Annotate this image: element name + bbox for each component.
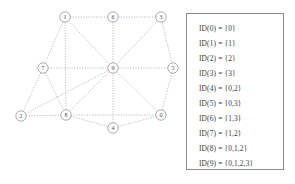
legend-entry: ID(5) = {0,3} bbox=[187, 96, 283, 111]
graph-node-label: 9 bbox=[112, 65, 115, 71]
node-layer: 1637952804 bbox=[16, 12, 178, 133]
graph-node-6[interactable]: 6 bbox=[108, 12, 118, 22]
graph-node-label: 3 bbox=[160, 14, 163, 20]
graph-edge bbox=[23, 73, 41, 112]
graph-edge bbox=[65, 22, 66, 110]
graph-node-5[interactable]: 5 bbox=[168, 63, 178, 73]
graph-edge bbox=[118, 116, 156, 126]
graph-edge bbox=[71, 116, 108, 126]
legend-entry: ID(6) = {1,3} bbox=[187, 111, 283, 126]
graph-node-7[interactable]: 7 bbox=[38, 63, 48, 73]
graph-edge bbox=[70, 72, 110, 112]
graph-node-label: 1 bbox=[64, 14, 67, 20]
graph-node-1[interactable]: 1 bbox=[60, 12, 70, 22]
graph-node-3[interactable]: 3 bbox=[156, 12, 166, 22]
graph-edge bbox=[69, 21, 110, 64]
graph-node-label: 8 bbox=[65, 112, 68, 118]
graph-node-label: 2 bbox=[20, 113, 23, 119]
graph-node-4[interactable]: 4 bbox=[108, 123, 118, 133]
graph-node-9[interactable]: 9 bbox=[108, 63, 118, 73]
graph-edge bbox=[117, 72, 158, 112]
diagram-page: 1637952804 ID(0) = {0}ID(1) = {1}ID(2) =… bbox=[0, 0, 295, 184]
legend-entry: ID(2) = {2} bbox=[187, 51, 283, 66]
legend-entry: ID(7) = {1,2} bbox=[187, 126, 283, 141]
graph-node-0[interactable]: 0 bbox=[156, 110, 166, 120]
graph-svg: 1637952804 bbox=[0, 0, 182, 184]
graph-node-label: 4 bbox=[112, 125, 115, 131]
graph-node-2[interactable]: 2 bbox=[16, 111, 26, 121]
legend-box: ID(0) = {0}ID(1) = {1}ID(2) = {2}ID(3) =… bbox=[186, 13, 284, 170]
legend-entry: ID(9) = {0,1,2,3} bbox=[187, 156, 283, 171]
graph-node-label: 0 bbox=[160, 112, 163, 118]
graph-edge bbox=[162, 73, 171, 110]
graph-node-label: 6 bbox=[112, 14, 115, 20]
graph-node-label: 7 bbox=[42, 65, 45, 71]
graph-edge bbox=[45, 73, 63, 111]
graph-edge bbox=[26, 70, 109, 113]
legend-entry: ID(4) = {0,2} bbox=[187, 81, 283, 96]
graph-edge bbox=[117, 21, 158, 64]
legend-entry: ID(8) = {0,1,2} bbox=[187, 141, 283, 156]
graph-node-label: 5 bbox=[172, 65, 175, 71]
graph-edge bbox=[45, 22, 63, 63]
legend-entry: ID(3) = {3} bbox=[187, 66, 283, 81]
graph-node-8[interactable]: 8 bbox=[61, 110, 71, 120]
graph-panel: 1637952804 bbox=[0, 0, 182, 184]
legend-entry: ID(0) = {0} bbox=[187, 21, 283, 36]
graph-edge bbox=[162, 22, 172, 63]
graph-edge bbox=[26, 115, 61, 116]
legend-entry: ID(1) = {1} bbox=[187, 36, 283, 51]
